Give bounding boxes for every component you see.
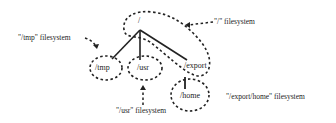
diagram-graphics (0, 0, 336, 123)
filesystem-tree-diagram: / /tmp /usr /export /home "/" filesystem… (0, 0, 336, 123)
node-usr: /usr (137, 64, 149, 72)
tmp-filesystem-label: "/tmp" filesystem (18, 34, 71, 42)
usr-filesystem-label: "/usr" filesystem (116, 107, 166, 115)
tree-edges (112, 30, 187, 89)
node-tmp: /tmp (95, 64, 110, 72)
root-pointer-arrow (188, 22, 213, 25)
root-filesystem-label: "/" filesystem (214, 18, 255, 26)
node-export: /export (184, 62, 207, 70)
tmp-arrowhead-icon (93, 44, 99, 49)
node-root: / (138, 17, 140, 25)
usr-arrowhead-icon (140, 85, 146, 90)
node-home: /home (180, 92, 200, 100)
home-filesystem-label: "/export/home" filesystem (226, 93, 305, 101)
